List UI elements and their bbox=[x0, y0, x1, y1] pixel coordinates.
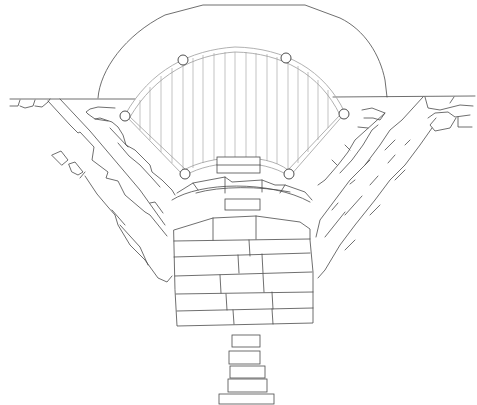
column-marker-top-right bbox=[281, 53, 291, 63]
right-edge-stones bbox=[425, 97, 473, 131]
step-5 bbox=[219, 394, 274, 404]
step-2 bbox=[229, 351, 260, 364]
right-lower-stones bbox=[325, 140, 410, 250]
step-4 bbox=[228, 379, 267, 392]
step-3 bbox=[230, 366, 265, 378]
left-lower-stones bbox=[80, 172, 172, 282]
left-outer-stones bbox=[52, 151, 83, 175]
column-marker-bottom-left bbox=[180, 169, 190, 179]
left-wall-mid bbox=[60, 99, 165, 225]
column-marker-mid-left bbox=[120, 111, 130, 121]
left-edge-stones bbox=[10, 99, 50, 108]
step-1 bbox=[232, 335, 260, 347]
arch-stone-row bbox=[172, 177, 312, 202]
column-marker-top-left bbox=[178, 55, 188, 65]
threshold-block bbox=[225, 199, 260, 210]
right-wall-mid bbox=[318, 128, 432, 278]
apse-left-edge bbox=[125, 115, 186, 175]
column-marker-mid-right bbox=[339, 109, 349, 119]
left-wall-inner bbox=[88, 114, 175, 195]
masonry-block bbox=[174, 216, 313, 326]
column-marker-bottom-right bbox=[284, 169, 294, 179]
right-inner-stones bbox=[332, 108, 385, 173]
steps bbox=[219, 335, 274, 404]
outer-dome-outline bbox=[98, 5, 387, 98]
plan-drawing bbox=[0, 0, 477, 405]
